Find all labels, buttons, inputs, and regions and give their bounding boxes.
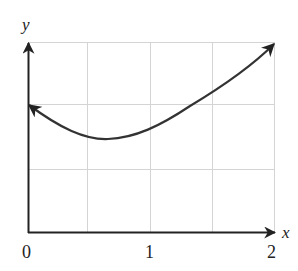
curve [29,44,274,139]
x-tick-0: 0 [22,242,31,262]
x-tick-2: 2 [267,242,276,262]
x-tick-1: 1 [145,242,154,262]
function-plot: y x 0 1 2 [0,0,298,271]
x-axis-label: x [281,223,290,242]
grid [28,42,275,232]
y-axis-label: y [20,15,30,34]
